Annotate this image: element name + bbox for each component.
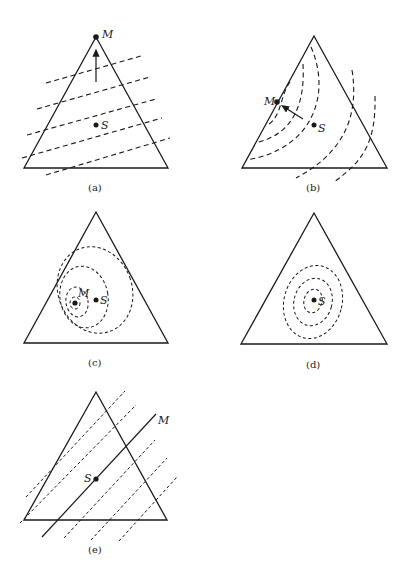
label-s: S bbox=[101, 119, 109, 132]
caption-c: (c) bbox=[88, 357, 102, 368]
label-m: M bbox=[263, 95, 276, 108]
label-m: M bbox=[77, 287, 90, 300]
point-s bbox=[312, 298, 317, 303]
label-m: M bbox=[157, 414, 170, 427]
point-s bbox=[94, 298, 99, 303]
caption-a: (a) bbox=[88, 182, 102, 193]
point-s bbox=[94, 123, 99, 128]
panel-b: M S (b) bbox=[242, 36, 387, 193]
caption-d: (d) bbox=[306, 359, 320, 370]
panel-a: M S (a) bbox=[22, 28, 170, 193]
panel-d: S (d) bbox=[241, 213, 387, 370]
caption-b: (b) bbox=[306, 182, 320, 193]
label-m: M bbox=[101, 28, 114, 41]
point-s bbox=[93, 476, 98, 481]
panel-c: M S (c) bbox=[24, 212, 168, 368]
triangle bbox=[24, 392, 167, 520]
label-s: S bbox=[318, 122, 326, 135]
triangle bbox=[24, 212, 168, 343]
caption-e: (e) bbox=[88, 544, 102, 555]
label-s: S bbox=[84, 472, 92, 485]
label-s: S bbox=[100, 294, 108, 307]
panel-e: S M (e) bbox=[20, 391, 177, 555]
point-m bbox=[72, 300, 77, 305]
point-s bbox=[312, 123, 317, 128]
point-m bbox=[93, 34, 99, 40]
figure: M S (a) M S (b) M S (c) S bbox=[0, 0, 409, 574]
label-s: S bbox=[318, 295, 326, 308]
